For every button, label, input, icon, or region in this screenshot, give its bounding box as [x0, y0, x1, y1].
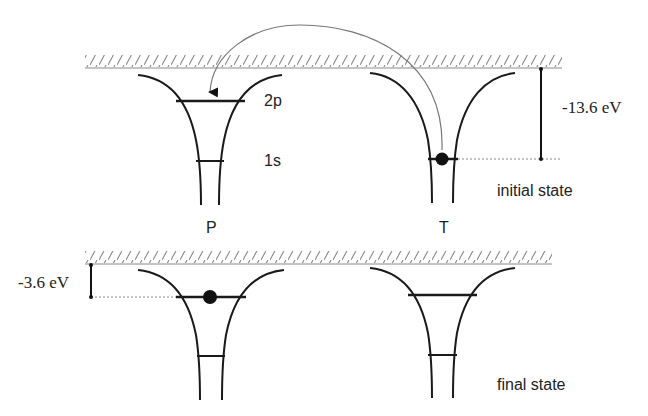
label-energy-final: -3.6 eV — [18, 273, 70, 292]
label-2p: 2p — [264, 92, 282, 109]
target-well-final — [370, 268, 515, 398]
label-final-state: final state — [497, 376, 566, 393]
projectile-well-initial — [138, 75, 282, 205]
initial-state-panel: 2p 1s -13.6 eV initial state P T — [85, 25, 622, 236]
label-energy-initial: -13.6 eV — [562, 98, 622, 117]
continuum-surface-top — [85, 55, 562, 68]
label-projectile: P — [206, 219, 217, 236]
binding-energy-marker-final — [89, 263, 176, 299]
projectile-well-final — [138, 270, 284, 400]
label-1s: 1s — [264, 152, 281, 169]
continuum-surface-bottom — [85, 251, 552, 264]
binding-energy-marker-initial — [458, 67, 562, 161]
electron-dot-final — [203, 290, 217, 304]
final-state-panel: -3.6 eV final state — [18, 251, 566, 400]
capture-arrow — [210, 25, 442, 150]
label-initial-state: initial state — [497, 182, 573, 199]
label-target: T — [439, 219, 449, 236]
electron-dot-initial — [436, 153, 449, 166]
capture-diagram: 2p 1s -13.6 eV initial state P T — [0, 0, 648, 416]
